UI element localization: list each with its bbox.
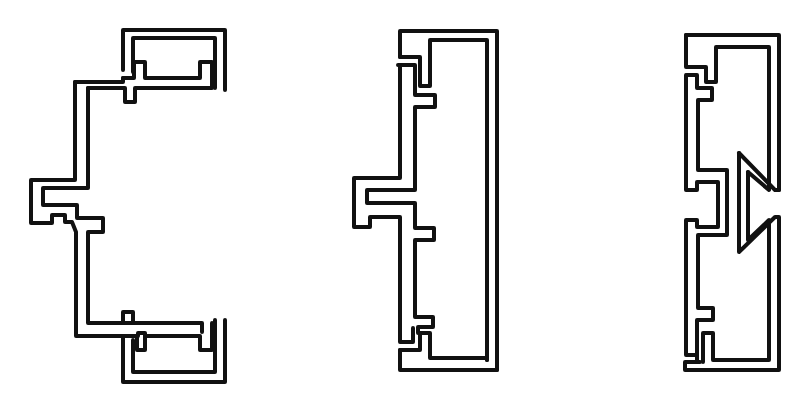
profile-1-c-channel-segment [75,78,123,82]
profile-1-c-channel [31,30,225,382]
profile-3-interlocking-frame [685,35,779,370]
profile-3-interlocking-frame-segment [703,172,769,362]
profile-2-closed-frame [354,31,497,370]
drawing-canvas [0,0,802,397]
profile-3-interlocking-frame-segment [739,153,779,190]
profile-1-c-channel-segment [43,88,202,332]
